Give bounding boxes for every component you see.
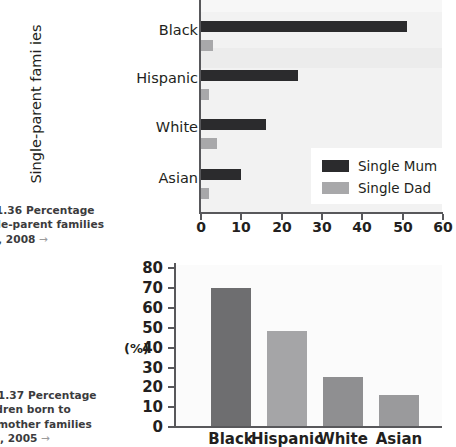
bottom-chart-unit-label: (%) — [124, 341, 149, 356]
top-chart-bar-white-single-mum — [201, 119, 266, 130]
arrow-right-icon: → — [39, 233, 48, 245]
caption-line: children born to — [0, 402, 97, 416]
bottom-chart-x-axis-line — [174, 426, 442, 428]
bottom-chart-category-label-hispanic: Hispanic — [251, 430, 323, 447]
arrow-right-icon: → — [41, 432, 50, 444]
top-chart-x-tick-label: 60 — [433, 219, 452, 235]
top-chart-y-axis-line — [199, 0, 201, 214]
caption-line: ure 1.37 Percentage — [0, 388, 97, 402]
top-chart-y-axis-title: Single-parent fami ies — [28, 0, 44, 214]
top-chart-x-tick-label: 40 — [352, 219, 371, 235]
bottom-chart-y-tick — [168, 426, 175, 428]
top-chart-bar-black-single-dad — [201, 40, 213, 51]
bottom-chart-category-label-black: Black — [208, 430, 254, 447]
top-chart-x-tick-label: 30 — [312, 219, 331, 235]
bottom-chart-bar-black — [211, 288, 251, 426]
caption-line-with-arrow: race, 2008 → — [0, 232, 104, 246]
legend-label-single-dad: Single Dad — [358, 180, 431, 196]
top-chart-bar-hispanic-single-dad — [201, 89, 209, 100]
bottom-chart-y-tick — [168, 287, 175, 289]
bottom-chart-y-tick-label: 60 — [142, 299, 163, 317]
top-chart-bar-hispanic-single-mum — [201, 70, 298, 81]
bottom-chart-y-tick — [168, 307, 175, 309]
bottom-chart-bar-white — [323, 377, 363, 426]
caption-line: ure 1.36 Percentage — [0, 203, 104, 217]
legend-item-single-mum: Single Mum — [322, 157, 437, 175]
bottom-chart-y-tick-label: 80 — [142, 259, 163, 277]
top-chart-category-label-asian: Asian — [158, 170, 198, 186]
figure-1-36-caption: ure 1.36 Percentage single-parent famili… — [0, 203, 104, 246]
top-chart-category-label-hispanic: Hispanic — [136, 70, 198, 86]
bottom-chart-bar-asian — [379, 395, 419, 426]
top-chart-bar-asian-single-mum — [201, 169, 241, 180]
plot-background-band — [201, 48, 442, 68]
bottom-chart-y-tick-label: 30 — [142, 359, 163, 377]
bottom-chart-y-tick — [168, 406, 175, 408]
bottom-chart-y-tick — [168, 367, 175, 369]
bottom-chart-bar-hispanic — [267, 331, 307, 426]
bottom-chart-y-tick — [168, 327, 175, 329]
bottom-chart-category-label-asian: Asian — [376, 430, 422, 447]
top-chart-category-label-white: White — [156, 119, 198, 135]
bottom-chart-y-tick — [168, 386, 175, 388]
caption-line: race, 2005 — [0, 432, 38, 444]
top-chart-x-tick-label: 50 — [393, 219, 412, 235]
bottom-chart-y-tick — [168, 347, 175, 349]
caption-line: gle-mother families — [0, 417, 97, 431]
top-chart-x-tick-label: 0 — [196, 219, 206, 235]
caption-line: single-parent families — [0, 217, 104, 231]
top-chart-x-tick-label: 20 — [272, 219, 291, 235]
top-chart-bar-asian-single-dad — [201, 188, 209, 199]
bottom-chart-y-tick-label: 20 — [142, 378, 163, 396]
figure-1-36-chart: Single-parent fami ies Black Hispanic Wh… — [0, 0, 456, 232]
bottom-chart-category-label-white: White — [318, 430, 368, 447]
legend-item-single-dad: Single Dad — [322, 179, 431, 197]
bottom-chart-y-tick — [168, 267, 175, 269]
bottom-chart-y-tick-label: 70 — [142, 279, 163, 297]
top-chart-bar-black-single-mum — [201, 21, 407, 32]
bottom-chart-y-tick-label: 50 — [142, 319, 163, 337]
top-chart-category-label-black: Black — [159, 22, 198, 38]
plot-background-band — [201, 0, 442, 12]
caption-line: race, 2008 — [0, 233, 36, 245]
figure-1-37-caption: ure 1.37 Percentage children born to gle… — [0, 388, 97, 446]
top-chart-legend: Single Mum Single Dad — [311, 148, 442, 204]
caption-line-with-arrow: race, 2005 → — [0, 431, 97, 445]
bottom-chart-y-tick-label: 0 — [153, 418, 163, 436]
top-chart-x-tick-label: 10 — [231, 219, 250, 235]
top-chart-bar-white-single-dad — [201, 138, 217, 149]
legend-swatch-icon — [322, 160, 349, 172]
legend-label-single-mum: Single Mum — [358, 158, 437, 174]
bottom-chart-y-tick-label: 10 — [142, 398, 163, 416]
legend-swatch-icon — [322, 182, 349, 194]
